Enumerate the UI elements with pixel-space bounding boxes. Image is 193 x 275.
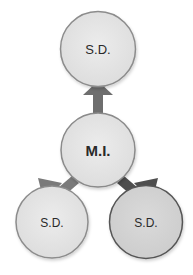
diagram-canvas: S.D. M.I. S.D. S.D. [0, 0, 193, 275]
node-bottom-left-label: S.D. [40, 216, 63, 230]
node-bottom-right-label: S.D. [134, 216, 157, 230]
node-top-label: S.D. [85, 42, 110, 57]
node-center-label: M.I. [86, 142, 111, 159]
node-center: M.I. [61, 113, 135, 187]
node-bottom-left: S.D. [16, 186, 88, 258]
node-bottom-right: S.D. [110, 186, 183, 259]
node-top: S.D. [61, 12, 136, 87]
